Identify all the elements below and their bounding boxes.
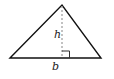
height-label: h [54, 28, 61, 41]
base-label: b [52, 60, 59, 73]
right-angle-marker [62, 51, 70, 58]
triangle-diagram: h b [0, 0, 114, 79]
